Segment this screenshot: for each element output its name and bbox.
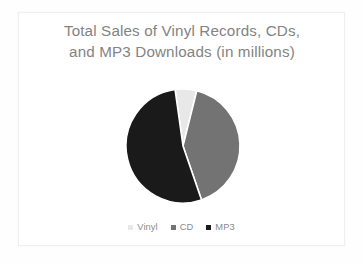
chart-legend: VinylCDMP3	[0, 222, 363, 233]
legend-swatch-mp3-icon	[206, 225, 211, 230]
legend-item-vinyl[interactable]: Vinyl	[128, 222, 157, 233]
legend-swatch-cd-icon	[171, 225, 176, 230]
pie-chart: Total Sales of Vinyl Records, CDs, and M…	[0, 0, 363, 264]
legend-swatch-vinyl-icon	[128, 225, 133, 230]
chart-title: Total Sales of Vinyl Records, CDs, and M…	[34, 20, 330, 62]
pie-slices	[126, 89, 240, 203]
legend-item-mp3[interactable]: MP3	[206, 222, 234, 233]
legend-label: CD	[180, 222, 194, 233]
slide-canvas: Total Sales of Vinyl Records, CDs, and M…	[0, 0, 363, 264]
legend-label: MP3	[215, 222, 234, 233]
pie-svg	[124, 86, 244, 208]
legend-item-cd[interactable]: CD	[171, 222, 194, 233]
pie-graphic	[124, 86, 244, 208]
legend-label: Vinyl	[137, 222, 157, 233]
